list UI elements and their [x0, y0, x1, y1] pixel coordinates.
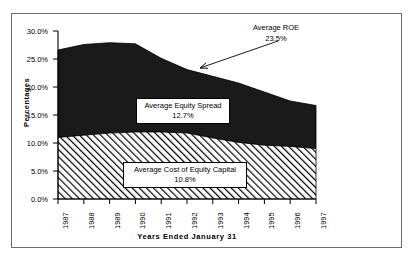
y-tick-label-25: 25.0%: [14, 55, 48, 64]
average-roe-arrow: [200, 41, 278, 68]
annotation-average-cost-of-equity-capital-value: 10.8%: [129, 175, 241, 185]
annotation-average-roe: Average ROE 23.5%: [228, 23, 324, 45]
x-tick-label-1995: 1995: [267, 212, 276, 229]
x-tick-label-1987: 1987: [61, 212, 70, 229]
x-axis-ticks: [58, 199, 316, 204]
x-axis-title: Years Ended January 31: [58, 232, 316, 241]
x-tick-label-1988: 1988: [87, 212, 96, 229]
x-tick-label-1996: 1996: [293, 212, 302, 229]
annotation-average-equity-spread-value: 12.7%: [142, 111, 224, 121]
x-tick-label-1989: 1989: [113, 212, 122, 229]
annotation-average-equity-spread-label: Average Equity Spread: [145, 101, 222, 110]
y-tick-label-10: 10.0%: [14, 139, 48, 148]
x-tick-label-1993: 1993: [216, 212, 225, 229]
annotation-average-equity-spread: Average Equity Spread 12.7%: [136, 98, 230, 124]
y-axis-title: Percentages: [22, 68, 31, 138]
y-tick-label-0: 0.0%: [14, 195, 48, 204]
x-tick-label-1991: 1991: [164, 212, 173, 229]
x-tick-label-1990: 1990: [138, 212, 147, 229]
y-tick-label-15: 15.0%: [14, 111, 48, 120]
annotation-average-cost-of-equity-capital: Average Cost of Equity Capital 10.8%: [123, 162, 247, 188]
y-tick-label-5: 5.0%: [14, 167, 48, 176]
annotation-average-roe-label: Average ROE: [228, 23, 324, 34]
y-tick-label-20: 20.0%: [14, 83, 48, 92]
y-tick-label-30: 30.0%: [14, 27, 48, 36]
x-tick-label-1997: 1997: [319, 212, 328, 229]
chart-figure: 30.0% 25.0% 20.0% 15.0% 10.0% 5.0% 0.0% …: [0, 0, 415, 262]
x-tick-label-1994: 1994: [242, 212, 251, 229]
y-axis-ticks: [53, 31, 58, 199]
annotation-average-cost-of-equity-capital-label: Average Cost of Equity Capital: [134, 165, 236, 174]
annotation-average-roe-value: 23.5%: [228, 34, 324, 45]
x-tick-label-1992: 1992: [190, 212, 199, 229]
